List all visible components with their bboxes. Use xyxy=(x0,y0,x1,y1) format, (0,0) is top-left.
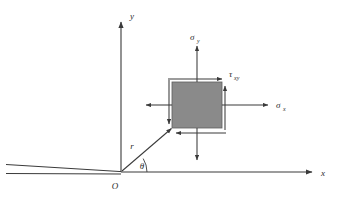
tau-xy-label: τ xy xyxy=(229,69,240,81)
origin-label: O xyxy=(112,181,119,191)
tau-xy-subscript: xy xyxy=(233,75,240,81)
crack-line-lower xyxy=(6,174,121,175)
sigma-x-symbol: σ xyxy=(276,100,281,110)
stress-element-square xyxy=(172,82,222,128)
x-axis-label: x xyxy=(320,168,325,178)
sigma-x-subscript: x xyxy=(282,106,286,112)
sigma-y-symbol: σ xyxy=(190,32,195,42)
y-axis-label: y xyxy=(129,11,134,21)
diagram-canvas: y x O r θ σ y σ x τ xy xyxy=(0,0,338,200)
radius-label: r xyxy=(130,141,134,151)
sigma-y-subscript: y xyxy=(196,38,200,44)
angle-label: θ xyxy=(140,161,145,171)
crack-line-upper xyxy=(6,165,121,172)
tau-xy-symbol: τ xyxy=(229,69,233,79)
stress-element-diagram: y x O r θ σ y σ x τ xy xyxy=(0,0,338,200)
sigma-x-label: σ x xyxy=(276,100,286,112)
sigma-y-label: σ y xyxy=(190,32,200,44)
crack-lines xyxy=(6,165,121,175)
